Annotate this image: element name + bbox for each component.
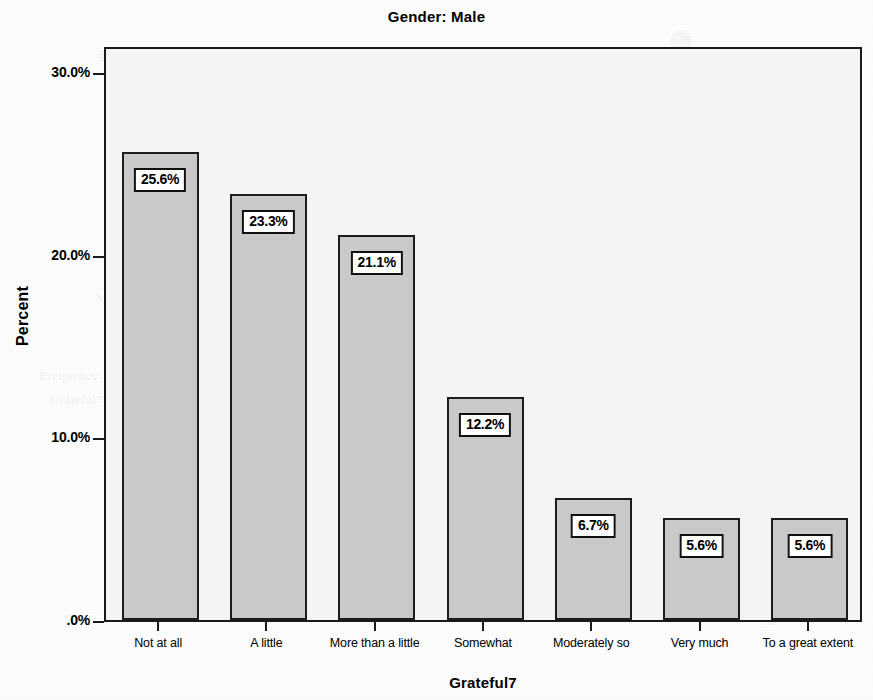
y-axis-tick-mark	[93, 73, 104, 75]
x-axis-tick-label: A little	[214, 636, 318, 650]
bar-value-label: 25.6%	[134, 168, 186, 192]
bar-6[interactable]: 5.6%	[663, 518, 740, 620]
bar-value-label: 5.6%	[787, 534, 832, 558]
bar-value-label: 6.7%	[571, 514, 616, 538]
y-axis-tick-mark	[93, 621, 104, 623]
bar-7[interactable]: 5.6%	[771, 518, 848, 620]
y-axis-tick-label: 30.0%	[51, 64, 90, 80]
y-axis-tick-mark	[93, 256, 104, 258]
x-axis-tick-mark	[807, 622, 809, 631]
x-axis-tick-mark	[482, 622, 484, 631]
bar-value-label: 12.2%	[459, 413, 511, 437]
plot-area: 25.6%23.3%21.1%12.2%6.7%5.6%5.6%	[104, 47, 862, 622]
bar-value-label: 23.3%	[242, 210, 294, 234]
x-axis-title: Grateful7	[104, 674, 862, 691]
bar-5[interactable]: 6.7%	[555, 498, 632, 620]
x-axis-tick-label: Somewhat	[431, 636, 535, 650]
x-axis-tick-mark	[374, 622, 376, 631]
x-axis-tick-label: Very much	[648, 636, 752, 650]
y-axis-tick-mark	[93, 438, 104, 440]
bar-value-label: 5.6%	[679, 534, 724, 558]
x-axis-tick-label: Moderately so	[539, 636, 643, 650]
x-axis-tick-mark	[590, 622, 592, 631]
y-axis-tick-label: 20.0%	[51, 247, 90, 263]
x-axis-tick-mark	[265, 622, 267, 631]
bar-3[interactable]: 21.1%	[338, 235, 415, 620]
chart-title: Gender: Male	[0, 8, 873, 25]
x-axis-tick-mark	[699, 622, 701, 631]
x-axis-tick-label: To a great extent	[756, 636, 860, 650]
bar-1[interactable]: 25.6%	[122, 152, 199, 620]
y-axis-tick-label: .0%	[66, 612, 90, 628]
plot-inner: 25.6%23.3%21.1%12.2%6.7%5.6%5.6%	[106, 49, 860, 620]
x-axis-tick-label: Not at all	[106, 636, 210, 650]
x-axis-tick-label: More than a little	[323, 636, 427, 650]
y-axis-tick-label: 10.0%	[51, 429, 90, 445]
bar-2[interactable]: 23.3%	[230, 194, 307, 620]
bar-chart-figure: Gender: Male Percent 25.6%23.3%21.1%12.2…	[0, 0, 873, 700]
bar-value-label: 21.1%	[351, 251, 403, 275]
x-axis-tick-mark	[157, 622, 159, 631]
bar-4[interactable]: 12.2%	[447, 397, 524, 620]
y-axis-title: Percent	[14, 236, 32, 396]
